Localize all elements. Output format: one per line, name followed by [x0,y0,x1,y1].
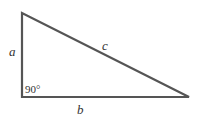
right-triangle-diagram [0,0,209,121]
right-angle-label: 90° [25,84,40,95]
side-a-label: a [9,45,16,58]
triangle-shape [22,13,189,97]
side-c-label: c [102,39,108,52]
side-b-label: b [77,103,84,116]
